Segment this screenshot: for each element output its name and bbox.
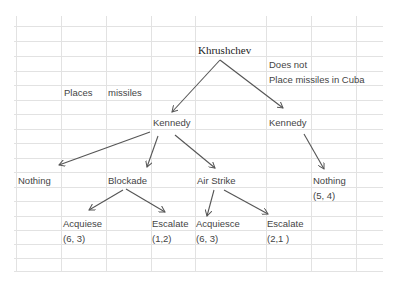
- move-label-missiles: missiles: [108, 87, 142, 98]
- node-air-strike: Air Strike: [197, 175, 236, 186]
- leaf-nothing-right: Nothing: [313, 175, 346, 186]
- move-label-does-not: Does not: [269, 59, 307, 70]
- leaf-acquiese: Acquiese: [63, 218, 102, 229]
- leaf-escalate-airstrike: Escalate: [267, 218, 303, 229]
- node-kennedy-left: Kennedy: [153, 117, 191, 128]
- edge-blockade-acquiese: [89, 190, 123, 210]
- edge-blockade-escalate: [126, 189, 165, 212]
- payoff-escalate-blockade: (1,2): [152, 233, 172, 244]
- edge-places-missiles: [172, 60, 220, 112]
- edge-kennedy-blockade: [147, 136, 158, 167]
- node-blockade: Blockade: [108, 175, 147, 186]
- move-label-place-missiles-in-cuba: Place missiles in Cuba: [269, 74, 365, 85]
- leaf-escalate-blockade: Escalate: [152, 218, 188, 229]
- edge-airstrike-escalate: [224, 190, 268, 214]
- move-label-places: Places: [64, 87, 93, 98]
- edge-airstrike-acquiesce: [207, 190, 214, 216]
- payoff-escalate-airstrike: (2,1 ): [267, 233, 289, 244]
- node-khrushchev: Khrushchev: [198, 45, 251, 56]
- leaf-nothing-left: Nothing: [18, 175, 51, 186]
- edge-kennedy-airstrike: [175, 135, 215, 168]
- payoff-nothing-right: (5, 4): [313, 190, 335, 201]
- payoff-acquiese: (6, 3): [63, 233, 85, 244]
- node-kennedy-right: Kennedy: [269, 117, 307, 128]
- game-tree-diagram: Khrushchev Places missiles Does not Plac…: [0, 0, 393, 286]
- edge-kennedy-nothing: [59, 132, 150, 165]
- payoff-acquiesce: (6, 3): [196, 233, 218, 244]
- leaf-acquiesce: Acquiesce: [196, 218, 240, 229]
- edge-kennedy-right-nothing: [304, 134, 324, 169]
